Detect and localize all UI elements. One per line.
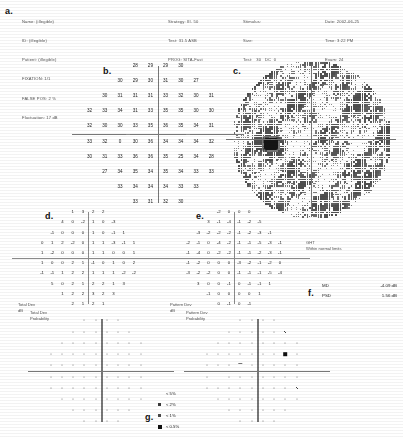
greyscale-dot — [326, 91, 327, 92]
probability-dot — [262, 365, 263, 366]
greyscale-dot — [265, 179, 266, 180]
grid-value: -1 — [278, 251, 282, 256]
greyscale-dot — [315, 113, 316, 114]
greyscale-dot — [256, 95, 257, 96]
greyscale-dot — [254, 104, 255, 105]
greyscale-dot — [322, 108, 323, 109]
probability-dot — [262, 398, 263, 399]
greyscale-dot — [289, 119, 290, 120]
greyscale-dot — [300, 69, 301, 70]
greyscale-dot — [313, 110, 314, 111]
greyscale-dot — [355, 198, 356, 199]
greyscale-dot — [243, 137, 244, 138]
greyscale-dot — [260, 154, 261, 155]
greyscale-dot — [289, 157, 290, 158]
greyscale-dot — [271, 163, 272, 164]
greyscale-dot — [263, 121, 264, 122]
grid-value: 31 — [209, 124, 214, 129]
probability-dot — [274, 398, 275, 399]
greyscale-dot — [263, 183, 264, 184]
greyscale-dot — [263, 185, 264, 186]
grid-value: 31 — [148, 94, 153, 99]
greyscale-dot — [342, 106, 343, 107]
greyscale-dot — [322, 165, 323, 166]
greyscale-dot — [274, 192, 275, 193]
grid-value: 0 — [61, 261, 63, 266]
greyscale-dot — [351, 205, 352, 206]
probability-dot — [95, 354, 96, 355]
greyscale-dot — [254, 185, 255, 186]
greyscale-dot — [282, 185, 283, 186]
greyscale-dot — [276, 108, 277, 109]
grid-value: 31 — [133, 94, 138, 99]
probability-dot — [129, 387, 130, 388]
greyscale-dot — [384, 168, 385, 169]
greyscale-dot — [357, 115, 358, 116]
greyscale-dot — [249, 106, 250, 107]
grid-value: 1 — [41, 261, 43, 266]
greyscale-dot — [271, 95, 273, 97]
greyscale-dot — [260, 176, 261, 177]
greyscale-dot — [291, 95, 293, 97]
probability-dot — [274, 320, 275, 321]
probability-dot — [262, 331, 263, 332]
greyscale-dot — [293, 126, 294, 127]
greyscale-dot — [293, 157, 294, 158]
grid-value: 0 — [71, 251, 73, 256]
greyscale-dot — [238, 117, 239, 118]
total-deviation-grid: 132240-210-3-100010-11012-2011-3-111-200… — [10, 208, 170, 308]
greyscale-dot — [359, 130, 360, 131]
greyscale-dot — [364, 143, 365, 144]
greyscale-dot — [342, 93, 343, 94]
greyscale-dot — [357, 135, 358, 136]
greyscale-dot — [263, 165, 264, 166]
greyscale-dot — [337, 73, 338, 74]
greyscale-dot — [337, 163, 338, 164]
greyscale-dot — [329, 95, 330, 96]
probability-dot — [240, 331, 241, 332]
greyscale-dot — [258, 124, 259, 125]
horizontal-axis — [12, 258, 164, 259]
pattern-deviation-grid: -20003-1-4-1-2-5-3-2-2-2-1-2-3-1-2-10-4-… — [162, 208, 322, 308]
greyscale-dot — [300, 150, 301, 151]
greyscale-dot — [260, 174, 261, 175]
grid-value: -1 — [237, 240, 241, 245]
greyscale-dot — [307, 141, 308, 142]
greyscale-dot — [289, 88, 290, 89]
probability-dot — [285, 342, 286, 343]
greyscale-dot — [344, 163, 345, 164]
probability-dot — [84, 398, 85, 399]
greyscale-dot — [271, 86, 272, 87]
greyscale-dot — [298, 71, 299, 72]
greyscale-dot — [377, 104, 378, 105]
greyscale-dot — [322, 86, 323, 87]
greyscale-dot — [276, 168, 277, 169]
greyscale-dot — [289, 154, 290, 155]
greyscale-dot — [300, 115, 301, 116]
greyscale-dot — [280, 124, 281, 125]
greyscale-dot — [254, 187, 255, 188]
grid-value: -2 — [186, 240, 190, 245]
greyscale-dot — [287, 137, 288, 138]
greyscale-dot — [331, 82, 332, 83]
greyscale-dot — [256, 119, 257, 120]
greyscale-dot — [300, 121, 301, 122]
probability-dot — [118, 387, 119, 388]
greyscale-dot — [326, 93, 327, 94]
greyscale-dot — [342, 126, 343, 127]
greyscale-dot — [241, 135, 242, 136]
greyscale-dot — [359, 132, 360, 133]
grid-value: -2 — [227, 251, 231, 256]
greyscale-dot — [300, 64, 301, 65]
greyscale-dot — [362, 86, 363, 87]
greyscale-dot — [256, 172, 257, 173]
greyscale-dot — [234, 141, 235, 142]
probability-dot — [251, 354, 252, 355]
greyscale-dot — [291, 119, 292, 120]
greyscale-dot — [353, 130, 354, 131]
grid-value: 1 — [61, 271, 63, 276]
probability-dot — [84, 320, 85, 321]
greyscale-dot — [298, 130, 299, 131]
greyscale-dot — [260, 163, 261, 164]
grid-value: 31 — [102, 155, 107, 160]
